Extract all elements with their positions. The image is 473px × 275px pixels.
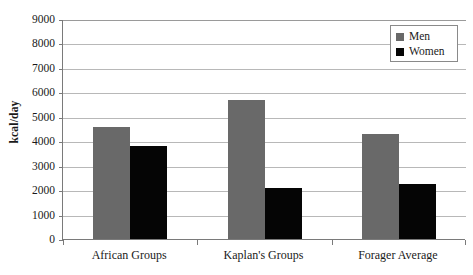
bar-men xyxy=(93,127,130,239)
chart-legend: MenWomen xyxy=(390,25,458,62)
legend-label: Men xyxy=(409,31,430,43)
y-axis-tick-mark xyxy=(59,191,63,192)
y-axis-tick-mark xyxy=(59,93,63,94)
x-axis-tick-mark xyxy=(197,240,198,245)
y-axis-tick-label: 8000 xyxy=(3,38,55,50)
x-axis-tick-mark xyxy=(63,240,64,245)
legend-label: Women xyxy=(409,46,444,58)
x-axis-tick-mark xyxy=(332,240,333,245)
y-axis-tick-labels: 9000800070006000500040003000200010000 xyxy=(0,20,55,240)
y-axis-tick-mark xyxy=(59,69,63,70)
y-axis-tick-mark xyxy=(59,44,63,45)
y-axis-tick-mark xyxy=(59,20,63,21)
y-axis-tick-mark xyxy=(59,216,63,217)
bar-women xyxy=(130,146,167,239)
y-axis-tick-label: 0 xyxy=(3,234,55,246)
y-axis-tick-label: 1000 xyxy=(3,210,55,222)
y-axis-tick-mark xyxy=(59,167,63,168)
y-axis-tick-mark xyxy=(59,142,63,143)
x-axis-tick-label: Forager Average xyxy=(318,248,473,262)
bar-women xyxy=(399,184,436,239)
gridline xyxy=(63,93,466,94)
plot-top-rule xyxy=(63,20,466,21)
legend-item: Women xyxy=(396,44,457,59)
legend-item: Men xyxy=(396,29,457,44)
y-axis-tick-label: 3000 xyxy=(3,161,55,173)
y-axis-tick-mark xyxy=(59,118,63,119)
bar-women xyxy=(265,188,302,239)
y-axis-tick-label: 2000 xyxy=(3,185,55,197)
x-axis-tick-mark xyxy=(465,240,466,245)
legend-swatch-icon xyxy=(396,48,404,56)
y-axis-tick-label: 9000 xyxy=(3,14,55,26)
y-axis-tick-label: 4000 xyxy=(3,136,55,148)
gridline xyxy=(63,118,466,119)
bar-men xyxy=(228,100,265,239)
y-axis-tick-label: 7000 xyxy=(3,63,55,75)
bar-chart: kcal/day 9000800070006000500040003000200… xyxy=(0,0,473,275)
y-axis-tick-label: 5000 xyxy=(3,112,55,124)
legend-swatch-icon xyxy=(396,33,404,41)
gridline xyxy=(63,69,466,70)
bar-men xyxy=(362,134,399,239)
y-axis-tick-label: 6000 xyxy=(3,87,55,99)
